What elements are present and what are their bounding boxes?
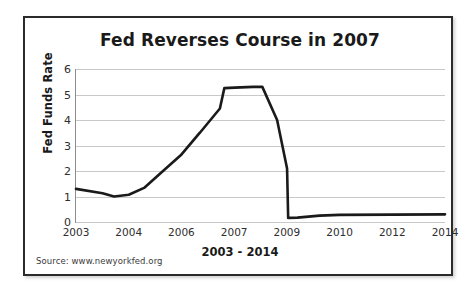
line-series-fed-funds-rate: [76, 69, 445, 222]
x-tick-label: 2003: [63, 226, 90, 238]
gridline: [76, 222, 445, 223]
y-tick-label: 1: [45, 190, 71, 203]
x-tick-label: 2010: [326, 226, 353, 238]
x-tick-label: 2006: [168, 226, 195, 238]
x-tick-label: 2012: [379, 226, 406, 238]
y-tick-label: 2: [45, 165, 71, 178]
x-axis-tick-labels: 20032004200620072009201020122014: [76, 226, 445, 242]
y-tick-label: 6: [45, 63, 71, 76]
y-tick-label: 3: [45, 139, 71, 152]
y-tick-label: 5: [45, 88, 71, 101]
chart-card: Fed Reverses Course in 2007 Fed Funds Ra…: [23, 16, 453, 276]
source-note: Source: www.newyorkfed.org: [36, 256, 163, 266]
x-tick-label: 2014: [432, 226, 459, 238]
x-tick-label: 2009: [273, 226, 300, 238]
plot-area: [76, 69, 445, 222]
y-axis-tick-labels: 0123456: [45, 69, 71, 222]
x-tick-label: 2004: [115, 226, 142, 238]
chart-title: Fed Reverses Course in 2007: [25, 30, 455, 50]
x-tick-label: 2007: [221, 226, 248, 238]
y-tick-label: 4: [45, 114, 71, 127]
